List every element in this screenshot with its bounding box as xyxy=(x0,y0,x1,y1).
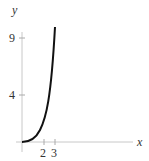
y-tick-label-4: 4 xyxy=(9,88,15,102)
chart: y x 9 4 2 3 xyxy=(0,0,149,161)
y-axis-label: y xyxy=(11,3,18,17)
curve-line xyxy=(22,27,55,142)
x-tick-label-3: 3 xyxy=(51,146,57,160)
x-tick-label-2: 2 xyxy=(40,146,46,160)
x-axis-label: x xyxy=(136,135,143,149)
y-tick-label-9: 9 xyxy=(9,31,15,45)
